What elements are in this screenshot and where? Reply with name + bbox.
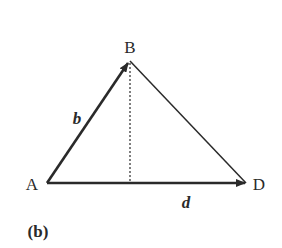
vector-label-b: b xyxy=(73,109,82,128)
vector-b xyxy=(47,63,128,183)
vector-label-d: d xyxy=(182,193,191,212)
point-label-a: A xyxy=(26,175,39,194)
segment-bd xyxy=(130,61,246,183)
triangle-diagram: B A D b d (b) xyxy=(0,0,282,248)
figure-caption: (b) xyxy=(28,222,49,241)
point-label-b: B xyxy=(124,38,135,57)
point-label-d: D xyxy=(253,175,265,194)
